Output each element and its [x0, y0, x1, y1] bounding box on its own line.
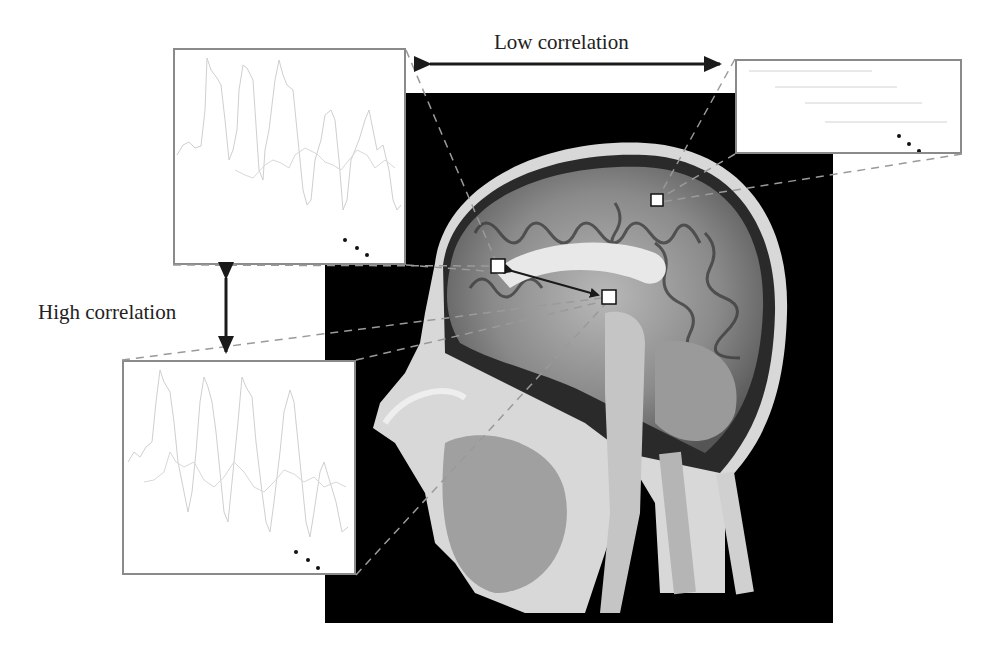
signal-box-top-left: [173, 48, 406, 265]
signal-box-bottom-left: [122, 360, 356, 575]
flat-signal-plot: [737, 61, 960, 152]
oscillating-signal-plot: [175, 50, 404, 263]
low-correlation-label: Low correlation: [494, 30, 629, 55]
oscillating-signal-plot: [124, 362, 354, 573]
signal-box-top-right: [735, 59, 962, 154]
high-correlation-label: High correlation: [38, 300, 176, 325]
